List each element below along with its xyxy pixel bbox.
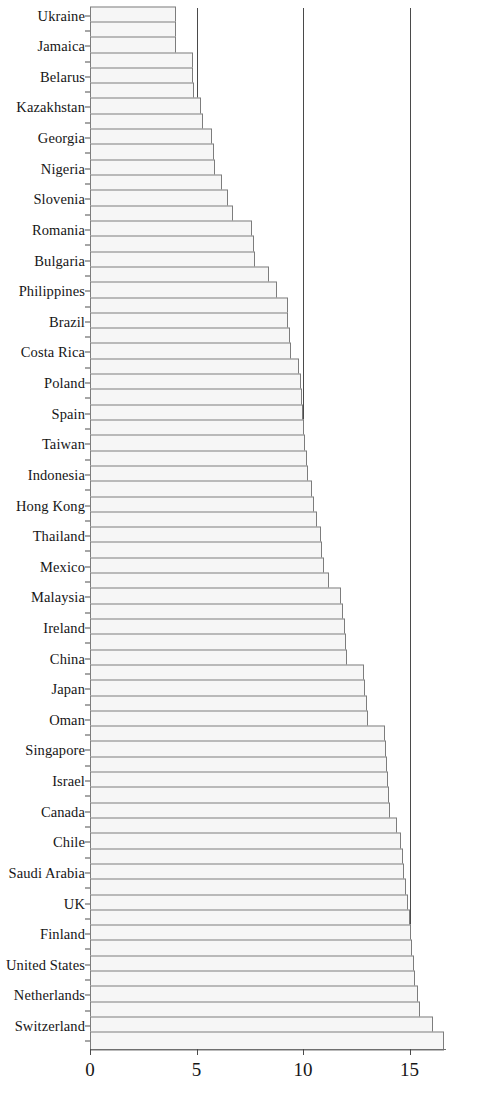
bar-category-label: Oman <box>49 713 85 728</box>
bar-row <box>0 146 481 161</box>
x-axis-tick-label: 0 <box>85 1060 95 1079</box>
bar-category-label: China <box>50 651 85 666</box>
bar-category-label: Kazakhstan <box>16 100 85 115</box>
bar-row: Georgia <box>0 130 481 145</box>
bar-category-label: Thailand <box>33 529 85 544</box>
bar-category-label: United States <box>6 958 85 973</box>
x-axis-tick-label: 5 <box>192 1060 202 1079</box>
bar-row: Jamaica <box>0 39 481 54</box>
bar-category-label: Saudi Arabia <box>8 866 85 881</box>
bar-category-label: Canada <box>41 804 85 819</box>
bar-category-label: Brazil <box>49 315 85 330</box>
bar-category-label: Chile <box>53 835 85 850</box>
bar-category-label: Japan <box>51 682 85 697</box>
x-axis-tick-mark <box>410 1049 411 1055</box>
bar <box>90 1032 444 1051</box>
bar-row: Belarus <box>0 69 481 84</box>
bar-category-label: Malaysia <box>31 590 85 605</box>
bar-category-label: Romania <box>32 223 85 238</box>
bar-category-label: Netherlands <box>14 988 85 1003</box>
bar-category-label: Jamaica <box>38 39 85 54</box>
bar-category-label: Spain <box>51 406 85 421</box>
x-axis-tick-mark <box>90 1049 91 1055</box>
bar-category-label: Singapore <box>25 743 85 758</box>
bar-category-label: Taiwan <box>42 437 85 452</box>
bar-category-label: Belarus <box>40 70 85 85</box>
bar-category-label: Nigeria <box>41 161 85 176</box>
x-axis-tick-label: 10 <box>294 1060 313 1079</box>
bar-category-label: Israel <box>52 774 85 789</box>
bar-row <box>0 1034 481 1049</box>
x-axis-tick-mark <box>197 1049 198 1055</box>
bar-category-label: Costa Rica <box>21 345 85 360</box>
bar-category-label: Hong Kong <box>16 498 85 513</box>
bar-row <box>0 23 481 38</box>
bar-category-label: Slovenia <box>33 192 85 207</box>
bar-category-label: Poland <box>44 376 85 391</box>
bar-category-label: UK <box>64 896 85 911</box>
bar-row: Nigeria <box>0 161 481 176</box>
bar-row: Slovenia <box>0 192 481 207</box>
bar-category-label: Finland <box>40 927 85 942</box>
bar-row <box>0 54 481 69</box>
bar-category-label: Georgia <box>38 131 85 146</box>
bar-row <box>0 115 481 130</box>
bar-category-label: Bulgaria <box>34 253 85 268</box>
bar-category-label: Switzerland <box>15 1019 85 1034</box>
bar-row: Kazakhstan <box>0 100 481 115</box>
x-axis-tick-label: 15 <box>400 1060 419 1079</box>
bar-category-label: Ukraine <box>38 8 85 23</box>
bar-category-label: Philippines <box>19 284 85 299</box>
x-axis-tick-mark <box>303 1049 304 1055</box>
bar-row: Ukraine <box>0 8 481 23</box>
bar-category-label: Mexico <box>40 560 85 575</box>
bar-row <box>0 85 481 100</box>
x-axis: 051015 <box>0 1049 481 1110</box>
plot-area: UkraineJamaicaBelarusKazakhstanGeorgiaNi… <box>0 0 481 1056</box>
bar-category-label: Indonesia <box>28 468 85 483</box>
horizontal-bar-chart: UkraineJamaicaBelarusKazakhstanGeorgiaNi… <box>0 0 481 1110</box>
bar-category-label: Ireland <box>43 621 85 636</box>
bar-row <box>0 176 481 191</box>
